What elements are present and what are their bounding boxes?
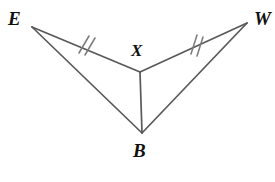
geometry-diagram: E W X B	[0, 0, 275, 182]
vertex-label-B: B	[133, 141, 146, 160]
vertex-label-W: W	[254, 9, 271, 28]
segment-EB	[32, 27, 142, 133]
segment-EX	[32, 27, 140, 72]
segment-BW	[142, 23, 247, 133]
segment-XB	[140, 72, 142, 133]
vertex-label-X: X	[131, 42, 142, 59]
vertex-label-E: E	[8, 9, 21, 28]
